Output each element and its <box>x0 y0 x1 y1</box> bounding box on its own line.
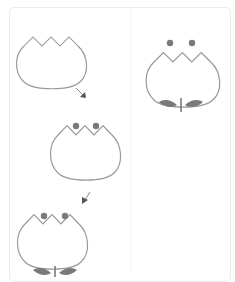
dot-icon <box>167 40 173 46</box>
stem-leaves-icon <box>159 98 203 112</box>
dot-icon <box>41 213 47 219</box>
dot-icon <box>93 123 99 129</box>
arrow-down-left-icon <box>82 192 90 204</box>
step-1-tulip-cup <box>17 37 87 89</box>
dot-icon <box>189 40 195 46</box>
dot-icon <box>73 123 79 129</box>
arrow-down-right-icon <box>76 88 86 98</box>
step-2-tulip-cup-with-dots <box>51 126 121 181</box>
step-3-tulip-with-stem <box>18 215 88 270</box>
final-tulip <box>146 53 220 108</box>
dot-icon <box>62 213 68 219</box>
